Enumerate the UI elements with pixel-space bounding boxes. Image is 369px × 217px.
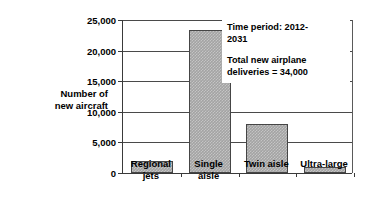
x-axis-label-line-1: Ultra-large — [295, 158, 353, 170]
y-tick-label: 5,000 — [92, 137, 116, 148]
y-tick-label: 25,000 — [87, 15, 116, 26]
y-tick-mark — [118, 81, 123, 82]
y-tick-mark — [118, 142, 123, 143]
y-tick-label: 0 — [111, 168, 116, 179]
x-axis-label-line-1: Twin aisle — [238, 158, 296, 170]
y-tick-label: 20,000 — [87, 45, 116, 56]
gridline — [123, 142, 352, 143]
x-axis-label-line-1: Regional — [122, 158, 180, 170]
chart-figure: Number of new aircraft 05,00010,00015,00… — [0, 0, 369, 217]
y-tick-mark — [118, 51, 123, 52]
y-tick-label: 15,000 — [87, 76, 116, 87]
annotation-total-line-2: deliveries = 34,000 — [227, 66, 347, 78]
y-axis-title-line-1: Number of — [6, 88, 108, 100]
y-tick-mark — [118, 112, 123, 113]
x-axis-label-twin-aisle: Twin aisle — [238, 158, 296, 170]
x-tick-mark — [296, 173, 297, 177]
x-axis-label-line-2: aisle — [180, 170, 238, 182]
y-tick-label: 10,000 — [87, 106, 116, 117]
x-axis-label-line-1: Single — [180, 158, 238, 170]
x-tick-mark — [239, 173, 240, 177]
x-axis-label-single-aisle: Singleaisle — [180, 158, 238, 181]
annotation-time-period-line-1: Time period: 2012- — [227, 21, 347, 33]
x-axis-label-line-2: jets — [122, 170, 180, 182]
chart-annotation-box: Time period: 2012- 2031 Total new airpla… — [222, 17, 350, 83]
annotation-time-period-line-2: 2031 — [227, 33, 347, 45]
x-axis-label-ultra-large: Ultra-large — [295, 158, 353, 170]
x-tick-mark — [354, 173, 355, 177]
y-tick-mark — [118, 20, 123, 21]
gridline — [123, 112, 352, 113]
x-axis-label-regional-jets: Regionaljets — [122, 158, 180, 181]
annotation-total-line-1: Total new airplane — [227, 54, 347, 66]
